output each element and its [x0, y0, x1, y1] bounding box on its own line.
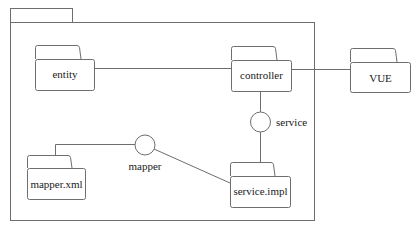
package-tab	[28, 156, 73, 169]
package-label: service.impl	[233, 185, 287, 197]
outer-package-tab	[11, 9, 73, 23]
interface-label: service	[276, 116, 307, 128]
package-tab	[231, 163, 276, 177]
package-label: entity	[52, 68, 78, 80]
package-tab	[351, 49, 398, 63]
package-label: VUE	[369, 72, 392, 84]
package-vue[interactable]: VUE	[351, 49, 411, 93]
package-label: controller	[240, 69, 283, 81]
package-label: mapper.xml	[30, 178, 82, 190]
interface-label: mapper	[129, 160, 162, 172]
interface-circle-icon	[251, 112, 271, 132]
package-diagram: entity controller VUE service mapper map…	[0, 0, 417, 230]
package-tab	[36, 46, 82, 60]
package-tab	[232, 47, 278, 61]
interface-circle-icon	[135, 135, 155, 155]
